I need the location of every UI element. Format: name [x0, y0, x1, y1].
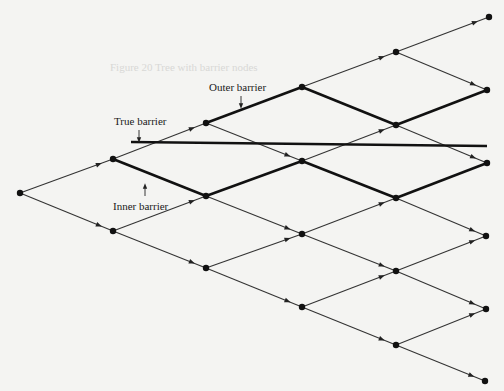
tree-node [203, 193, 209, 199]
edge-arrow-icon [188, 259, 194, 263]
inner-barrier-label: Inner barrier [113, 201, 168, 212]
edge-arrow-icon [471, 21, 477, 25]
tree-node [299, 158, 305, 164]
tree-node [486, 14, 492, 20]
barrier-edge [302, 161, 396, 198]
barrier-edge [396, 90, 487, 125]
tree-node [483, 233, 489, 239]
edge-arrow-icon [188, 200, 194, 204]
tree-node [483, 306, 489, 312]
tree-node [482, 378, 488, 384]
edge-arrow-icon [284, 225, 290, 229]
edge-arrow-icon [469, 313, 475, 317]
edge-arrow-icon [470, 81, 476, 86]
edge-arrow-icon [378, 336, 384, 340]
edge-arrow-icon [378, 275, 384, 279]
edge-arrow-icon [469, 300, 475, 305]
tree-node [484, 160, 490, 166]
true-barrier-line [131, 142, 487, 146]
tree-node [203, 265, 209, 271]
tree-node [393, 268, 399, 274]
edge-arrow-icon [469, 227, 475, 232]
edge-arrow-icon [468, 372, 474, 376]
edges-layer [20, 17, 489, 381]
tree-node [110, 228, 116, 234]
tree-canvas [0, 0, 504, 391]
tree-node [393, 122, 399, 128]
barrier-tree-diagram: Figure 20 Tree with barrier nodes Outer … [0, 0, 504, 391]
label-arrows-layer [139, 96, 241, 196]
edge-arrow-icon [188, 127, 194, 131]
edge-arrow-icon [378, 262, 384, 266]
edge-arrow-icon [378, 56, 384, 60]
edge-arrow-icon [284, 238, 290, 243]
edge-arrow-icon [378, 202, 384, 206]
tree-node [393, 342, 399, 348]
tree-node [110, 156, 116, 162]
true-barrier-label: True barrier [114, 116, 166, 127]
tree-node [17, 190, 23, 196]
tree-node [393, 49, 399, 55]
outer-barrier-label: Outer barrier [209, 82, 266, 93]
tree-node [299, 304, 305, 310]
tree-node [393, 195, 399, 201]
edge-arrow-icon [378, 129, 384, 133]
edge-arrow-icon [469, 240, 475, 244]
barrier-edge [206, 161, 302, 196]
nodes-layer [17, 14, 492, 384]
tree-node [299, 231, 305, 237]
edge-arrow-icon [95, 163, 101, 168]
true-barrier-line [131, 142, 487, 146]
tree-node [203, 120, 209, 126]
edge-arrow-icon [95, 222, 101, 226]
barrier-edge [396, 163, 487, 198]
edge-arrow-icon [470, 154, 476, 159]
tree-node [484, 87, 490, 93]
edge-arrow-icon [284, 298, 290, 302]
barrier-edge [113, 159, 206, 196]
tree-node [299, 84, 305, 90]
edge-arrow-icon [284, 152, 290, 156]
barrier-edge [302, 87, 396, 125]
